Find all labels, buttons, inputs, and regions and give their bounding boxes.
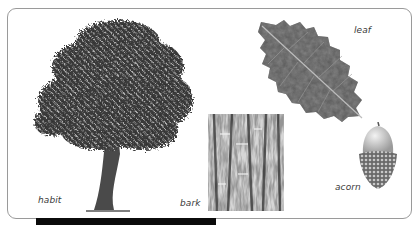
bark-label: bark <box>180 198 201 208</box>
leaf-label: leaf <box>354 25 371 35</box>
tree-illustration-icon <box>30 12 196 212</box>
bark-texture-icon <box>208 114 284 211</box>
acorn-label: acorn <box>335 182 361 192</box>
habit-label: habit <box>38 195 61 205</box>
acorn-illustration-icon <box>356 122 400 190</box>
leaf-illustration-icon <box>258 20 368 122</box>
caption-bar <box>36 218 216 225</box>
